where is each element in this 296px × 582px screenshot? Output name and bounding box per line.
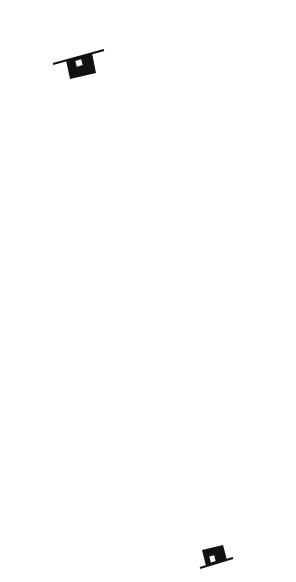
tongan-months-diagram xyxy=(0,0,296,582)
top-house-icon xyxy=(53,50,104,79)
bottom-house-icon xyxy=(200,545,233,568)
